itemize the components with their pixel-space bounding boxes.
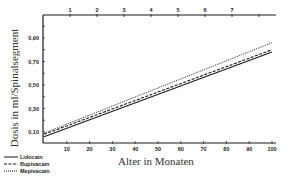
y-axis-tick-label: 0,50 (28, 82, 39, 88)
x-axis-tick-label: 10 (64, 146, 70, 152)
plot-lines (44, 43, 272, 137)
x-axis-tick-label: 30 (109, 146, 115, 152)
y-axis-tick-label: 0,70 (28, 59, 39, 65)
dose-by-age-chart: 1234567 0,100,300,500,700,90 10203040506… (0, 0, 289, 178)
top-axis-tick-label: 4 (149, 7, 153, 13)
x-axis-tick-label: 90 (246, 146, 252, 152)
top-axis-tick-label: 3 (122, 7, 125, 13)
y-axis-title: Dosis in ml/Spinalsegment (8, 29, 20, 148)
top-axis-tick-label: 5 (176, 7, 179, 13)
x-axis-title: Alter in Monaten (118, 155, 194, 167)
x-axis-tick-label: 70 (201, 146, 207, 152)
x-axis: 102030405060708090100 (43, 141, 277, 152)
top-axis-tick-label: 7 (230, 7, 233, 13)
y-axis-tick-label: 0,10 (28, 129, 39, 135)
series-line-lidocain (44, 52, 272, 137)
top-axis-tick-label: 1 (68, 7, 71, 13)
series-line-mepivacain (44, 43, 272, 133)
legend: LidocainBupivacainMepivacain (4, 154, 50, 174)
x-axis-tick-label: 20 (87, 146, 93, 152)
top-axis-tick-label: 6 (203, 7, 206, 13)
y-axis-tick-label: 0,30 (28, 106, 39, 112)
legend-label: Bupivacain (20, 161, 50, 167)
legend-label: Lidocain (20, 154, 43, 160)
legend-label: Mepivacain (20, 168, 50, 174)
x-axis-tick-label: 80 (223, 146, 229, 152)
y-axis: 0,100,300,500,700,90 (28, 15, 45, 143)
x-axis-tick-label: 50 (155, 146, 161, 152)
x-axis-tick-label: 60 (178, 146, 184, 152)
top-axis-tick-label: 2 (95, 7, 98, 13)
x-axis-tick-label: 40 (132, 146, 138, 152)
series-line-bupivacain (44, 50, 272, 135)
top-axis: 1234567 (43, 7, 276, 17)
x-axis-tick-label: 100 (267, 146, 276, 152)
y-axis-tick-label: 0,90 (28, 35, 39, 41)
